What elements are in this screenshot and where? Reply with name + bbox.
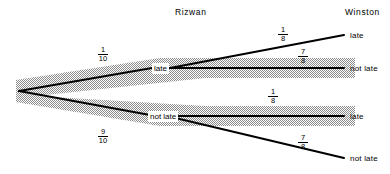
- probability-winston-late-2: 1 8: [266, 88, 280, 105]
- probability-rizwan-late: 1 10: [96, 46, 110, 63]
- fraction-numerator: 1: [96, 46, 110, 54]
- stage-header-rizwan: Rizwan: [175, 8, 206, 17]
- fraction-numerator: 7: [296, 48, 310, 56]
- fraction-numerator: 1: [266, 88, 280, 96]
- leaf-winston-not-late-1[interactable]: not late: [350, 64, 378, 73]
- fraction-denominator: 10: [96, 55, 110, 63]
- probability-winston-not-late-2: 7 8: [296, 134, 310, 151]
- node-rizwan-late[interactable]: late: [152, 63, 169, 74]
- probability-tree-diagram: Rizwan Winston late not late 1 10 9 10 1…: [0, 0, 390, 174]
- fraction-denominator: 8: [266, 97, 280, 105]
- fraction-denominator: 8: [276, 35, 290, 43]
- fraction-numerator: 9: [96, 128, 110, 136]
- leaf-winston-not-late-2[interactable]: not late: [350, 154, 378, 163]
- fraction-numerator: 7: [296, 134, 310, 142]
- probability-rizwan-not-late: 9 10: [96, 128, 110, 145]
- tree-canvas: [0, 0, 390, 174]
- leaf-winston-late-2[interactable]: late: [350, 112, 364, 121]
- fraction-denominator: 10: [96, 137, 110, 145]
- node-rizwan-not-late[interactable]: not late: [148, 111, 178, 122]
- stage-header-winston: Winston: [345, 8, 380, 17]
- fraction-numerator: 1: [276, 26, 290, 34]
- probability-winston-late-1: 1 8: [276, 26, 290, 43]
- leaf-winston-late-1[interactable]: late: [350, 31, 364, 40]
- fraction-denominator: 8: [296, 143, 310, 151]
- probability-winston-not-late-1: 7 8: [296, 48, 310, 65]
- fraction-denominator: 8: [296, 57, 310, 65]
